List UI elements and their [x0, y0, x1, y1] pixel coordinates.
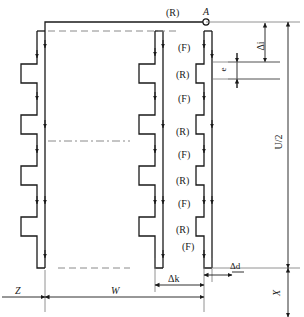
dimension-label-w: W — [111, 286, 119, 296]
right-dimension-lines — [206, 22, 300, 268]
right-conductor-flow-arrows — [204, 40, 212, 258]
dimension-label-e: e — [219, 63, 228, 77]
dimension-label-delta-d: Δd — [230, 262, 240, 271]
terminal-a-label: A — [203, 7, 209, 17]
flow-label-1: (F) — [178, 43, 190, 53]
flow-label-top-r: (R) — [166, 8, 179, 18]
dimension-label-z: Z — [15, 286, 21, 296]
dimension-label-x: X — [272, 284, 282, 302]
dimension-e-extension — [228, 62, 280, 79]
flow-label-7: (F) — [178, 199, 190, 209]
left-conductor-flow-arrows — [37, 40, 45, 258]
flow-label-9: (F) — [182, 242, 194, 252]
left-conductor-path — [21, 31, 45, 268]
dashed-guides — [48, 31, 180, 268]
top-lead-wire — [45, 22, 203, 31]
flow-label-8: (R) — [176, 225, 189, 235]
middle-left-conductor-flow-arrows — [155, 40, 163, 258]
flow-label-3: (F) — [178, 94, 190, 104]
dimension-label-delta-i: Δi — [256, 35, 266, 57]
flow-label-5: (F) — [178, 150, 190, 160]
dimension-label-delta-k: Δk — [168, 274, 179, 284]
flow-label-2: (R) — [176, 70, 189, 80]
diagram-canvas: A (R) (F) (R) (F) (R) (F) (R) (F) (R) (F… — [0, 0, 304, 317]
dimension-delta-d — [204, 272, 244, 275]
flow-label-4: (R) — [176, 127, 189, 137]
dimension-label-u-half: U/2 — [274, 129, 284, 155]
flow-label-6: (R) — [176, 176, 189, 186]
middle-left-conductor-path — [139, 31, 163, 268]
